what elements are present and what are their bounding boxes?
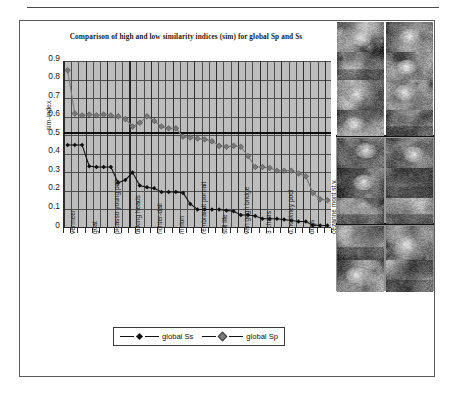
x-tick-mark [186,228,187,233]
chart-legend: global Ss global Sp [113,327,285,346]
series-global-sp [65,67,330,203]
x-tick-label: van gogh bridge [243,187,250,234]
legend-item-global-ss: global Ss [120,332,193,341]
x-tick-mark [99,228,100,233]
data-point-marker [94,113,100,119]
x-tick-mark [150,228,151,233]
x-tick-label: melon [178,216,185,234]
x-tick-label: goat [91,221,98,234]
x-tick-mark [237,228,238,233]
thumb-goat[interactable] [386,52,433,80]
data-point-marker [109,165,114,169]
thumbnail-row [336,225,434,259]
data-point-marker [281,168,287,174]
data-point-marker [166,126,172,132]
diamond-marker-icon [136,333,143,340]
x-tick-mark [295,228,296,233]
x-tick-mark [215,228,216,233]
data-point-marker [73,143,78,147]
x-tick-mark [324,228,325,233]
data-point-marker [101,112,107,118]
thumbnail-row [336,21,434,51]
group-portraits [336,21,434,135]
thumb-two-heads[interactable] [337,110,384,136]
data-point-marker [72,111,78,117]
x-tick-mark [230,228,231,233]
y-tick-label: 0.4 [48,146,60,155]
chart-title: Comparison of high and low similarity in… [40,32,332,41]
thumbnail-row [336,137,434,167]
x-tick-mark [164,228,165,233]
thumb-green-foliage[interactable] [386,226,433,260]
data-point-marker [202,137,208,143]
x-tick-label: d.hockney pool [287,190,294,234]
x-tick-mark [280,228,281,233]
data-point-marker [195,136,201,142]
legend-line-icon [202,336,216,337]
x-tick-label: dogs [308,220,315,234]
data-point-marker [303,173,309,179]
data-point-marker [115,114,121,120]
thumb-landscape-field[interactable] [337,52,384,80]
thumb-abstract-faces[interactable] [386,110,433,136]
thumbnail-row [336,109,434,135]
x-axis-tick-labels: vermeergoatpicasso young pairtalking hea… [63,234,331,334]
thumb-blonde-portrait[interactable] [337,22,384,52]
thumb-dark-animals[interactable] [337,260,384,292]
x-tick-mark [106,228,107,233]
thumb-girl-pearl-earring[interactable] [386,22,433,52]
data-point-marker [108,113,114,119]
y-tick-label: 0.8 [48,72,60,81]
thumbnail-row [336,167,434,197]
data-point-marker [274,168,280,174]
data-point-marker [267,165,273,171]
thumb-standing-figure[interactable] [337,198,384,224]
thumb-straw-hat-woman[interactable] [386,168,433,198]
data-point-marker [275,216,280,220]
legend-line-icon [145,336,159,337]
y-tick-label: 0.6 [48,109,60,118]
data-point-marker [260,164,266,170]
group-scenes [336,225,434,291]
x-tick-mark [193,228,194,233]
x-tick-label: richter-dali [156,203,163,234]
x-tick-mark [121,228,122,233]
x-tick-mark [302,228,303,233]
y-tick-label: 0.5 [48,128,60,137]
x-tick-mark [259,228,260,233]
data-point-marker [187,135,193,141]
data-point-marker [216,143,222,149]
legend-line-icon [229,336,243,337]
data-point-marker [174,190,179,194]
data-point-marker [65,67,71,73]
thumb-forest-scene[interactable] [386,260,433,292]
data-point-marker [231,143,237,149]
series-line [68,70,328,200]
y-tick-label: 0.2 [48,183,60,192]
thumbnail-row [336,259,434,291]
data-point-marker [296,219,301,223]
group-paintings [336,137,434,223]
x-tick-mark [317,228,318,233]
x-tick-mark [63,228,64,233]
data-point-marker [210,207,215,211]
x-tick-label: talking heads [134,195,141,234]
thumb-cattle-scene[interactable] [337,226,384,260]
y-tick-label: 0.7 [48,91,60,100]
data-point-marker [224,144,230,150]
thumbnail-row [336,51,434,79]
thumb-mother-child[interactable] [386,80,433,110]
x-tick-mark [273,228,274,233]
thumb-white-hat-woman[interactable] [337,168,384,198]
thumb-walking-figure[interactable] [386,198,433,224]
data-point-marker [253,214,258,218]
data-point-marker [94,165,99,169]
thumb-dark-portrait[interactable] [337,138,384,168]
x-tick-label: picasso young pair [113,179,120,234]
data-point-marker [209,138,215,144]
thumb-richter-blur[interactable] [386,138,433,168]
x-tick-mark [172,228,173,233]
figure-page: Comparison of high and low similarity in… [0,0,460,405]
thumb-two-people-standing[interactable] [337,80,384,110]
data-point-marker [87,164,92,168]
